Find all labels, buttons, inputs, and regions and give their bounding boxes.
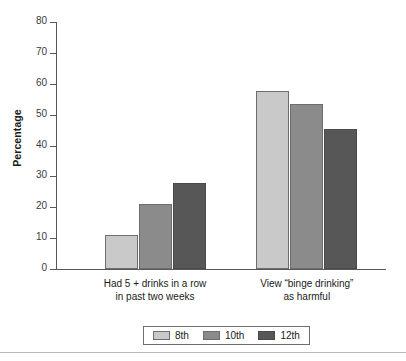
- y-axis-tick: 40: [50, 146, 56, 147]
- category-label: View “binge drinking” as harmful: [217, 277, 397, 303]
- y-axis-tick-label: 80: [36, 15, 47, 26]
- y-axis-tick-label: 40: [36, 139, 47, 150]
- bar-8th-cat1: [256, 91, 289, 269]
- y-axis-tick-label: 10: [36, 231, 47, 242]
- legend-item-12th[interactable]: 12th: [258, 330, 299, 341]
- legend-item-8th[interactable]: 8th: [153, 330, 189, 341]
- y-axis-tick: 20: [50, 207, 56, 208]
- legend-swatch-icon: [203, 331, 220, 340]
- bar-10th-cat0: [139, 204, 172, 269]
- x-axis-line: [56, 269, 386, 270]
- bar-12th-cat1: [324, 129, 357, 269]
- y-axis-tick-label: 0: [41, 262, 47, 273]
- y-axis-tick-label: 70: [36, 46, 47, 57]
- y-axis-tick: 50: [50, 115, 56, 116]
- y-axis-title-label: Percentage: [11, 109, 23, 167]
- legend-swatch-icon: [258, 331, 275, 340]
- y-axis-tick: 70: [50, 53, 56, 54]
- y-axis-tick: 10: [50, 238, 56, 239]
- y-axis-line: [56, 22, 57, 270]
- bar-group: [256, 22, 357, 269]
- bar-group: [105, 22, 206, 269]
- y-axis-tick: 80: [50, 22, 56, 23]
- legend-label: 12th: [280, 330, 299, 341]
- legend-item-10th[interactable]: 10th: [203, 330, 244, 341]
- y-axis-tick: 0: [50, 269, 56, 270]
- y-axis-tick: 30: [50, 176, 56, 177]
- legend-label: 8th: [175, 330, 189, 341]
- y-axis-tick-label: 20: [36, 200, 47, 211]
- legend-swatch-icon: [153, 331, 170, 340]
- bar-10th-cat1: [290, 104, 323, 269]
- bar-12th-cat0: [173, 183, 206, 269]
- plot-area: 01020304050607080 Had 5 + drinks in a ro…: [56, 22, 386, 270]
- footer-divider: [0, 352, 406, 353]
- chart-legend: 8th10th12th: [143, 326, 310, 345]
- legend-label: 10th: [225, 330, 244, 341]
- bar-8th-cat0: [105, 235, 138, 269]
- y-axis-title: Percentage: [8, 0, 26, 275]
- y-axis-tick-label: 50: [36, 108, 47, 119]
- y-axis-tick: 60: [50, 84, 56, 85]
- y-axis-tick-label: 60: [36, 77, 47, 88]
- y-axis-tick-label: 30: [36, 169, 47, 180]
- bar-chart-figure: Percentage 01020304050607080 Had 5 + dri…: [0, 0, 406, 361]
